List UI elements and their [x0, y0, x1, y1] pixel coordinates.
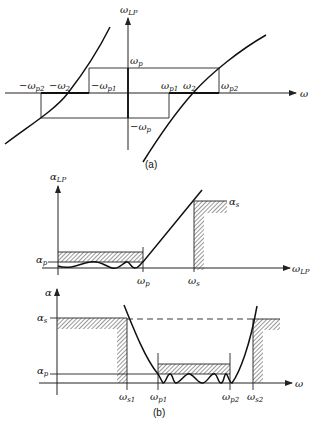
curve-right: [143, 35, 266, 162]
label-w2: ω2: [183, 80, 196, 93]
label-wp2: ωp2: [222, 391, 240, 404]
y-axis-label: αLP: [50, 171, 66, 184]
label-neg-wp1: −ωp1: [91, 80, 116, 93]
label-neg-wp: −ωp: [130, 121, 152, 134]
label-neg-wp2: −ωp2: [19, 80, 45, 93]
label-wp1: ωp1: [161, 80, 178, 93]
neg-wp-level-box: [41, 93, 169, 118]
y-axis-label: α: [45, 287, 52, 298]
label-wp2: ωp2: [221, 80, 239, 93]
x-axis-label: ω: [295, 378, 303, 389]
label-wp: ωp: [137, 275, 150, 288]
caption-b: (b): [153, 407, 165, 418]
left-stopband-shading: [57, 318, 127, 383]
label-ws2: ωs2: [247, 391, 264, 404]
right-stopband-shading: [253, 319, 280, 383]
stopband-shading: [194, 201, 227, 270]
panel-a: ωLP ω ωp −ωp ωp1 ω2 ωp2 −ωp2 −ω2 −ωp1 (a…: [5, 4, 308, 170]
passband-shading: [58, 252, 143, 262]
label-alpha-s: αs: [229, 196, 240, 209]
passband-shading: [158, 364, 230, 374]
label-ws1: ωs1: [119, 391, 135, 404]
bandpass-lowpass-transformation-figure: ωLP ω ωp −ωp ωp1 ω2 ωp2 −ωp2 −ω2 −ωp1 (a…: [0, 0, 315, 422]
label-alpha-p: αp: [37, 365, 49, 378]
label-neg-w2: −ω2: [49, 80, 71, 93]
label-alpha-p: αp: [36, 254, 48, 267]
label-ws: ωs: [188, 275, 200, 288]
caption-a: (a): [145, 159, 157, 170]
label-wp: ωp: [130, 55, 143, 68]
label-wp1: ωp1: [150, 391, 167, 404]
x-axis-label: ω: [300, 88, 308, 99]
x-axis-label: ωLP: [292, 263, 310, 276]
label-alpha-s: αs: [37, 312, 48, 325]
panel-b-lowpass: αLP ωLP αp αs ωp ωs: [36, 171, 310, 288]
y-axis-label: ωLP: [120, 4, 138, 17]
panel-b-bandpass: α ω αs αp ωs1 ωp1 ωp2 ωs2 (b): [37, 287, 303, 418]
